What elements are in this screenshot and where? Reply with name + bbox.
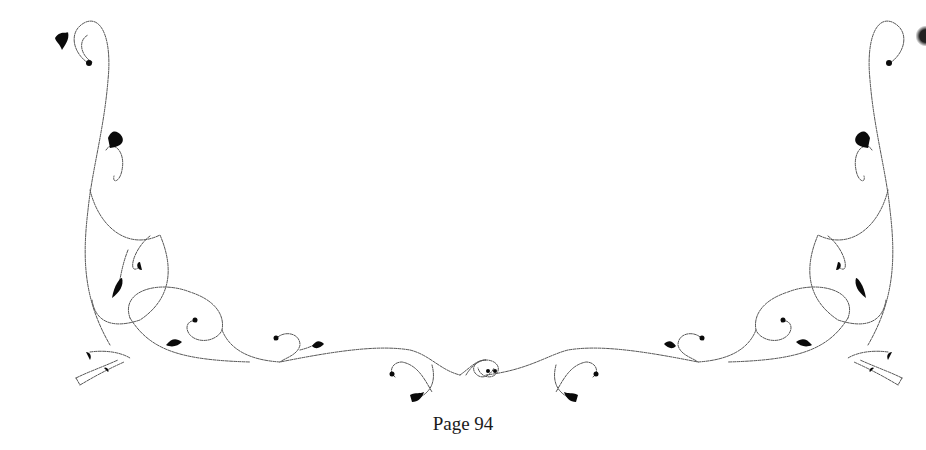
leaf-icon	[55, 32, 68, 50]
page-edge-shadow	[916, 26, 926, 46]
right-ornament-corner	[486, 21, 904, 402]
left-ornament-corner	[55, 21, 460, 402]
floral-scroll-ornament	[0, 0, 926, 450]
page-number: Page 94	[0, 413, 926, 435]
center-knot	[460, 360, 498, 377]
